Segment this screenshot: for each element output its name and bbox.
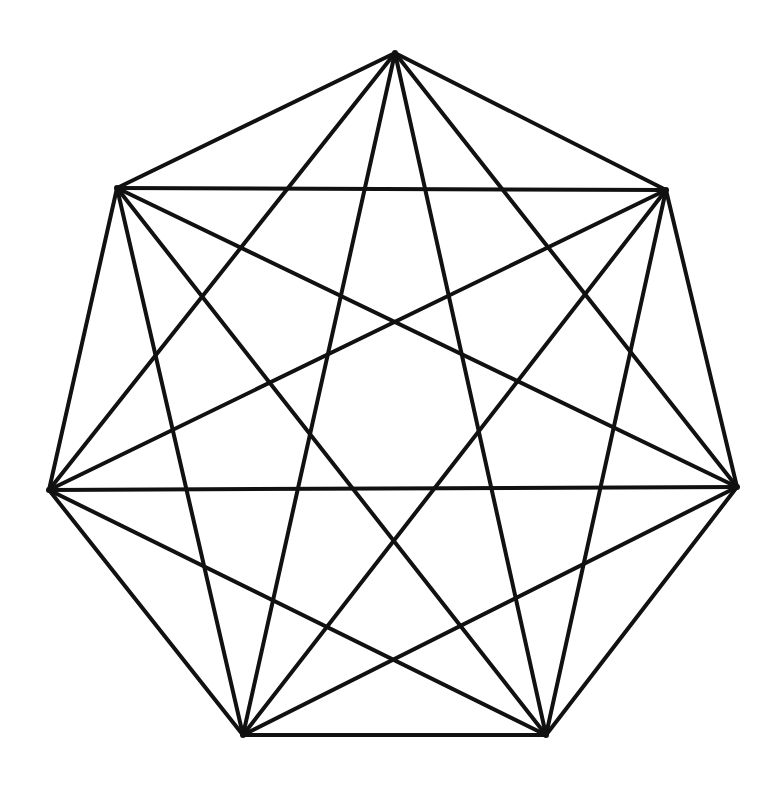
vertex-v5	[46, 487, 52, 493]
complete-graph-diagram	[0, 0, 783, 797]
vertex-v1	[663, 187, 669, 193]
edge-v0-v5	[49, 53, 395, 490]
graph-svg	[0, 0, 783, 797]
edge-v0-v6	[117, 53, 395, 188]
vertex-v6	[114, 185, 120, 191]
edge-v1-v5	[49, 190, 666, 490]
edge-v1-v3	[546, 190, 666, 735]
vertex-v0	[392, 50, 398, 56]
edge-v0-v1	[395, 53, 666, 190]
edge-v0-v3	[395, 53, 546, 735]
edge-v1-v4	[243, 190, 666, 735]
edge-v2-v5	[49, 487, 737, 490]
edge-v2-v6	[117, 188, 737, 487]
vertex-v2	[734, 484, 740, 490]
edge-v2-v4	[243, 487, 737, 735]
edge-v3-v5	[49, 490, 546, 735]
edge-v0-v4	[243, 53, 395, 735]
vertex-v4	[240, 732, 246, 738]
vertex-v3	[543, 732, 549, 738]
edge-v1-v6	[117, 188, 666, 190]
